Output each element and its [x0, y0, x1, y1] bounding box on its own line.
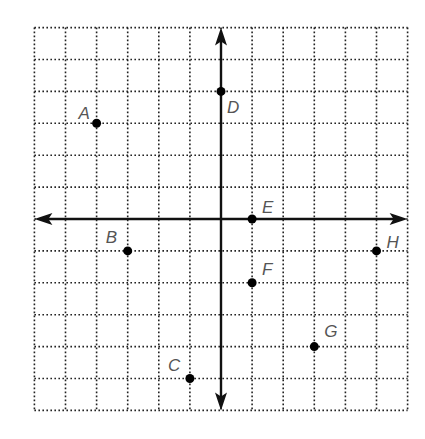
- point-marker: [217, 87, 226, 96]
- point-marker: [248, 215, 257, 224]
- point-marker: [185, 374, 194, 383]
- point-label: E: [262, 198, 274, 217]
- point-label: C: [168, 356, 181, 375]
- point-marker: [310, 342, 319, 351]
- point-label: A: [78, 104, 90, 123]
- point-label: B: [106, 228, 117, 247]
- point-marker: [123, 246, 132, 255]
- coordinate-plane: ABCDEFGH: [0, 0, 425, 439]
- point-marker: [372, 246, 381, 255]
- point-label: H: [387, 233, 400, 252]
- point-label: F: [262, 260, 274, 279]
- point-a: A: [78, 104, 102, 128]
- point-marker: [92, 119, 101, 128]
- point-marker: [248, 278, 257, 287]
- points: ABCDEFGH: [78, 87, 400, 383]
- point-label: G: [324, 322, 337, 341]
- point-label: D: [227, 98, 239, 117]
- axes: [34, 28, 407, 411]
